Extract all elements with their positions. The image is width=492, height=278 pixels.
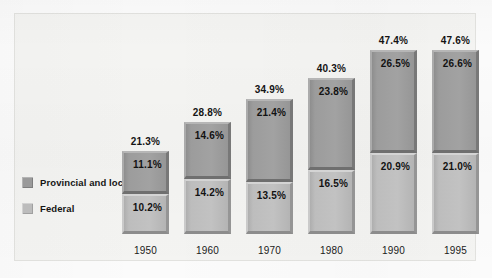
bar-value-federal-1960: 14.2% bbox=[186, 187, 233, 198]
bar-stack-1990: 26.5%20.9% bbox=[370, 50, 417, 234]
bar-value-provincial-1970: 21.4% bbox=[248, 107, 295, 118]
bar-value-federal-1970: 13.5% bbox=[248, 190, 295, 201]
bar-segment-provincial-1995[interactable]: 26.6% bbox=[432, 50, 479, 153]
bar-value-federal-1990: 20.9% bbox=[372, 161, 419, 172]
bar-segment-provincial-1980[interactable]: 23.8% bbox=[308, 78, 355, 170]
x-axis-label-1995: 1995 bbox=[426, 245, 485, 256]
bar-segment-provincial-1950[interactable]: 11.1% bbox=[122, 151, 169, 194]
x-axis-label-1960: 1960 bbox=[178, 245, 237, 256]
bar-segment-federal-1970[interactable]: 13.5% bbox=[246, 182, 293, 234]
bar-stack-1995: 26.6%21.0% bbox=[432, 50, 479, 234]
x-axis-label-1950: 1950 bbox=[116, 245, 175, 256]
bar-value-provincial-1980: 23.8% bbox=[310, 86, 357, 97]
bar-total-label-1990: 47.4% bbox=[370, 35, 417, 46]
x-axis-label-1970: 1970 bbox=[240, 245, 299, 256]
chart-bars-area: 21.3%11.1%10.2%195028.8%14.6%14.2%196034… bbox=[0, 0, 492, 278]
bar-value-federal-1980: 16.5% bbox=[310, 178, 357, 189]
bar-segment-provincial-1970[interactable]: 21.4% bbox=[246, 99, 293, 182]
stacked-bar-chart: Provincial and local Federal 21.3%11.1%1… bbox=[0, 0, 492, 278]
bar-segment-federal-1990[interactable]: 20.9% bbox=[370, 153, 417, 234]
bar-segment-federal-1960[interactable]: 14.2% bbox=[184, 179, 231, 234]
bar-segment-federal-1950[interactable]: 10.2% bbox=[122, 194, 169, 234]
bar-value-federal-1995: 21.0% bbox=[434, 161, 481, 172]
bar-stack-1960: 14.6%14.2% bbox=[184, 122, 231, 234]
bar-total-label-1995: 47.6% bbox=[432, 35, 479, 46]
bar-total-label-1960: 28.8% bbox=[184, 107, 231, 118]
bar-total-label-1970: 34.9% bbox=[246, 84, 293, 95]
bar-segment-provincial-1990[interactable]: 26.5% bbox=[370, 50, 417, 153]
bar-value-provincial-1995: 26.6% bbox=[434, 58, 481, 69]
bar-stack-1970: 21.4%13.5% bbox=[246, 99, 293, 234]
bar-value-provincial-1960: 14.6% bbox=[186, 130, 233, 141]
x-axis-label-1980: 1980 bbox=[302, 245, 361, 256]
bar-segment-federal-1980[interactable]: 16.5% bbox=[308, 170, 355, 234]
bar-total-label-1980: 40.3% bbox=[308, 63, 355, 74]
bar-segment-provincial-1960[interactable]: 14.6% bbox=[184, 122, 231, 179]
bar-segment-federal-1995[interactable]: 21.0% bbox=[432, 153, 479, 234]
bar-value-provincial-1990: 26.5% bbox=[372, 58, 419, 69]
x-axis-label-1990: 1990 bbox=[364, 245, 423, 256]
bar-value-federal-1950: 10.2% bbox=[124, 202, 171, 213]
bar-stack-1950: 11.1%10.2% bbox=[122, 151, 169, 234]
bar-stack-1980: 23.8%16.5% bbox=[308, 78, 355, 234]
bar-total-label-1950: 21.3% bbox=[122, 136, 169, 147]
bar-value-provincial-1950: 11.1% bbox=[124, 159, 171, 170]
